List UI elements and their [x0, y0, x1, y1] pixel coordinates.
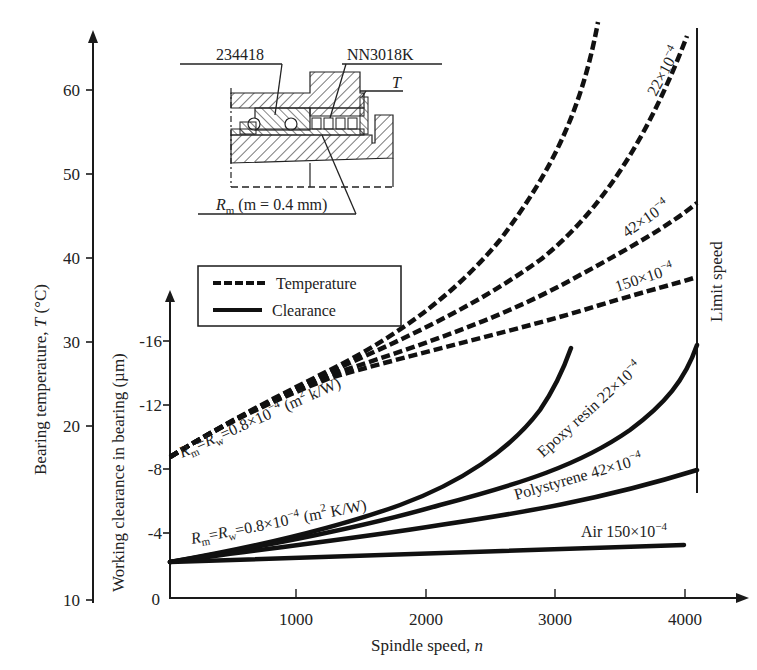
polystyrene-label: Polystyrene 42×10−4 [511, 447, 644, 504]
temp-label-22e-4: 22×10−4 [641, 42, 684, 98]
arrow-up-icon [165, 290, 175, 302]
x-tick-2000: 2000 [409, 610, 443, 629]
x-axis-title: Spindle speed, n [371, 636, 483, 655]
temp-base-label: Rm=Rw=0.8×10−4 (m2 k/W) [174, 371, 344, 464]
x-tick-3000: 3000 [538, 610, 572, 629]
bearing-inset-diagram: 234418 NN3018K T Rm (m = 0. [180, 46, 442, 216]
y-axis-temperature: 60 50 40 30 20 10 Bearing temperature, T… [31, 30, 98, 610]
y-left-tick-60: 60 [63, 81, 80, 100]
legend: Temperature Clearance [198, 266, 401, 326]
limit-speed-label: Limit speed [707, 241, 726, 322]
y-left-tick-30: 30 [63, 333, 80, 352]
x-tick-1000: 1000 [279, 610, 313, 629]
y-axis-clearance: -16 -12 -8 -4 0 Working clearance in bea… [109, 290, 175, 609]
legend-clearance-label: Clearance [272, 302, 336, 319]
y-inner-tick-m12: -12 [139, 396, 162, 415]
y-left-tick-40: 40 [63, 249, 80, 268]
y-left-ticks [86, 90, 93, 600]
legend-temperature-label: Temperature [276, 275, 357, 293]
inset-label-nn3018k: NN3018K [347, 46, 414, 63]
air-label: Air 150×10−4 [581, 520, 668, 540]
y-left-tick-20: 20 [63, 417, 80, 436]
inset-label-234418: 234418 [216, 46, 264, 63]
temp-curve-base [170, 22, 598, 457]
inset-label-T: T [392, 74, 402, 91]
inset-label-Rm: Rm (m = 0.4 mm) [215, 196, 327, 216]
arrow-up-icon [88, 30, 98, 43]
arrow-right-icon [736, 593, 749, 603]
temp-label-42e-4: 42×10−4 [617, 194, 672, 241]
y-left-axis-title: Bearing temperature, T (°C) [31, 284, 50, 475]
y-inner-tick-m4: -4 [148, 524, 163, 543]
temp-label-150e-4: 150×10−4 [612, 257, 676, 295]
y-inner-tick-m16: -16 [139, 332, 162, 351]
x-tick-4000: 4000 [668, 610, 702, 629]
chart-canvas: 60 50 40 30 20 10 Bearing temperature, T… [0, 0, 757, 670]
epoxy-label: Epoxy resin 22×10−4 [532, 356, 646, 461]
y-left-tick-50: 50 [63, 165, 80, 184]
y-inner-axis-title: Working clearance in bearing (µm) [109, 353, 128, 592]
x-axis: 1000 2000 3000 4000 Spindle speed, n [170, 589, 749, 655]
y-left-tick-10: 10 [63, 591, 80, 610]
y-inner-tick-m8: -8 [148, 460, 162, 479]
limit-speed-marker: Limit speed [697, 28, 726, 493]
y-inner-tick-0: 0 [152, 590, 161, 609]
